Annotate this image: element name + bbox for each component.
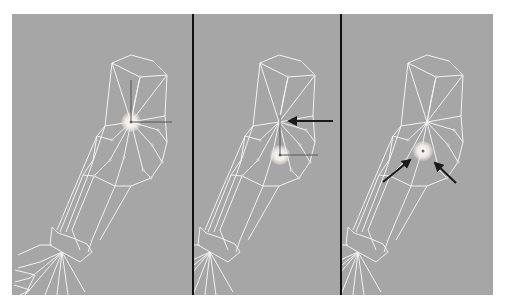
mesh-vertex	[241, 175, 243, 177]
figure-canvas	[0, 0, 505, 308]
mesh-vertex	[407, 139, 409, 141]
mesh-vertex	[257, 159, 259, 161]
mesh-vertex	[438, 169, 440, 171]
mesh-vertex	[123, 156, 125, 158]
mesh-vertex	[447, 144, 449, 146]
mesh-vertex	[453, 129, 455, 131]
mesh-vertex	[405, 159, 407, 161]
mesh-vertex	[457, 161, 459, 163]
mesh-vertex	[309, 161, 311, 163]
mesh-vertex	[161, 161, 163, 163]
mesh-vertex	[150, 177, 152, 179]
mesh-vertex	[435, 76, 437, 78]
mesh-vertex	[305, 129, 307, 131]
mesh-vertex	[151, 144, 153, 146]
mesh-vertex	[142, 169, 144, 171]
mesh-vertex	[299, 144, 301, 146]
mesh-vertex	[157, 129, 159, 131]
mesh-vertex	[259, 139, 261, 141]
mesh-vertex	[446, 177, 448, 179]
mesh-vertex	[109, 159, 111, 161]
wireframe-figure	[0, 0, 505, 308]
mesh-vertex	[93, 175, 95, 177]
mesh-vertex	[290, 169, 292, 171]
pivot-point	[422, 150, 425, 153]
mesh-vertex	[139, 76, 141, 78]
mesh-vertex	[111, 139, 113, 141]
mesh-vertex	[298, 177, 300, 179]
mesh-vertex	[287, 76, 289, 78]
